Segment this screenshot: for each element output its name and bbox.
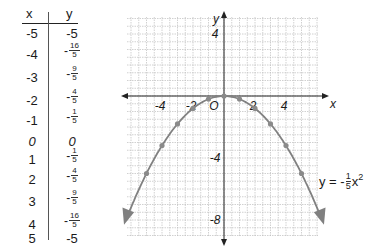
data-point: [159, 143, 164, 148]
equation-fraction: 1 5: [346, 172, 351, 191]
y-axis-label: y: [212, 12, 220, 26]
data-point: [144, 171, 149, 176]
y-tick-label: -4: [210, 151, 221, 165]
y-tick-label: 4: [212, 27, 219, 41]
arrow-right-icon: [314, 208, 326, 225]
x-axis-label: x: [329, 97, 337, 111]
data-point: [237, 97, 242, 102]
data-point: [252, 106, 257, 111]
arrow-left-icon: [122, 208, 134, 225]
equation-label: y = - 1 5 x2: [319, 172, 363, 191]
x-tick-label: 4: [281, 99, 288, 113]
axes: [121, 11, 329, 246]
data-point: [283, 143, 288, 148]
origin-label: O: [209, 99, 218, 113]
data-point: [299, 171, 304, 176]
x-tick-label: -4: [155, 99, 166, 113]
grid-lines: [127, 17, 318, 236]
data-point: [221, 93, 226, 98]
data-point: [268, 121, 273, 126]
equation-denominator: 5: [346, 182, 351, 191]
parabola-graph: -4-2244-4-8xyO: [0, 0, 380, 248]
data-point: [175, 121, 180, 126]
equation-exponent: 2: [358, 172, 363, 182]
data-point: [190, 106, 195, 111]
data-point: [206, 97, 211, 102]
y-tick-label: -8: [210, 213, 221, 227]
equation-lhs: y = -: [319, 174, 345, 189]
